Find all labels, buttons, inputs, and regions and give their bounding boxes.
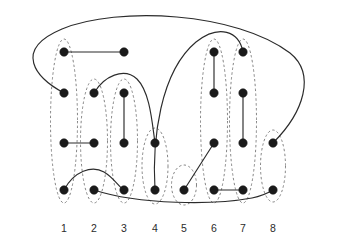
column-label-6: 6 [211,222,217,234]
column-labels-group: 12345678 [61,222,276,234]
column-label-2: 2 [91,222,97,234]
vertex-c2r3 [90,139,98,147]
vertex-c6r4 [210,186,218,194]
column-label-3: 3 [121,222,127,234]
diagram-canvas: 12345678 [0,0,340,243]
vertex-c8r4 [269,186,277,194]
vertex-c7r1 [239,48,247,56]
vertex-c6r3 [210,139,218,147]
vertex-c2r4 [90,186,98,194]
edge-c1r2-c8r3 [33,16,304,143]
column-label-5: 5 [181,222,187,234]
vertex-c1r1 [60,48,68,56]
vertex-c3r1 [120,48,128,56]
block-ellipse-column-1 [51,39,78,203]
vertex-c5r4 [180,186,188,194]
vertex-c3r4 [120,186,128,194]
block-ellipse-column-5 [172,165,197,205]
vertex-c1r3 [60,139,68,147]
vertex-c6r1 [210,48,218,56]
vertex-c4r4 [151,186,159,194]
vertex-c1r2 [60,89,68,97]
vertex-c1r4 [60,186,68,194]
vertex-c7r2 [239,89,247,97]
vertex-c7r4 [239,186,247,194]
vertex-c6r2 [210,89,218,97]
vertex-c8r3 [269,139,277,147]
vertex-c7r3 [239,139,247,147]
block-ellipses-group [51,39,286,205]
graph-partition-figure: 12345678 [0,0,340,243]
column-label-7: 7 [240,222,246,234]
vertex-c3r3 [120,139,128,147]
column-label-8: 8 [270,222,276,234]
edges-group [33,16,304,203]
column-label-1: 1 [61,222,67,234]
vertex-c3r2 [120,89,128,97]
vertices-group [60,48,277,194]
vertex-c4r3 [151,139,159,147]
column-label-4: 4 [152,222,158,234]
vertex-c2r2 [90,89,98,97]
